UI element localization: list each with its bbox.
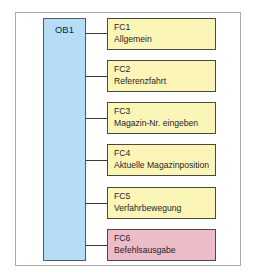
fc3-id: FC3 [114, 106, 215, 118]
fc5-id: FC5 [114, 191, 215, 203]
fc4-block: FC4 Aktuelle Magazinposition [107, 144, 216, 176]
connector-fc5 [86, 203, 107, 204]
fc2-name: Referenzfahrt [114, 76, 215, 88]
fc2-id: FC2 [114, 64, 215, 76]
fc5-block: FC5 Verfahrbewegung [107, 187, 216, 219]
ob1-label: OB1 [44, 24, 85, 35]
connector-fc6 [86, 245, 107, 246]
connector-fc1 [86, 33, 107, 34]
connector-fc2 [86, 76, 107, 77]
ob1-block: OB1 [43, 18, 86, 261]
fc1-name: Allgemein [114, 34, 215, 46]
fc1-block: FC1 Allgemein [107, 18, 216, 50]
fc6-name: Befehlsausgabe [114, 245, 215, 257]
connector-fc4 [86, 160, 107, 161]
fc4-name: Aktuelle Magazinposition [114, 160, 215, 172]
fc1-id: FC1 [114, 22, 215, 34]
fc6-id: FC6 [114, 233, 215, 245]
fc6-block: FC6 Befehlsausgabe [107, 229, 216, 261]
fc4-id: FC4 [114, 148, 215, 160]
fc3-block: FC3 Magazin-Nr. eingeben [107, 102, 216, 134]
connector-fc3 [86, 118, 107, 119]
fc3-name: Magazin-Nr. eingeben [114, 118, 215, 130]
fc2-block: FC2 Referenzfahrt [107, 60, 216, 92]
fc5-name: Verfahrbewegung [114, 203, 215, 215]
